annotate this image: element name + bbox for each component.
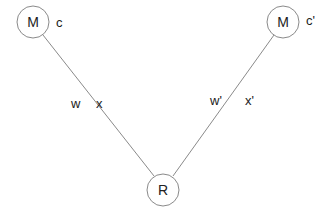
edge-label-x-prime: x'	[245, 93, 254, 108]
node-annotation-c: c	[56, 15, 63, 30]
node-m-right: M	[267, 6, 299, 38]
node-label: R	[158, 182, 168, 198]
edge-label-w-prime: w'	[209, 93, 222, 108]
node-r-bottom: R	[147, 174, 179, 206]
node-m-left: M	[17, 6, 49, 38]
edge-label-w: w	[70, 96, 81, 111]
node-annotation-c-prime: c'	[306, 13, 315, 28]
edge-label-x: x	[96, 96, 103, 111]
edge-right-to-r	[173, 35, 274, 176]
node-label: M	[277, 14, 289, 30]
diagram-canvas: M c M c' R w x w' x'	[0, 0, 328, 222]
node-label: M	[27, 14, 39, 30]
